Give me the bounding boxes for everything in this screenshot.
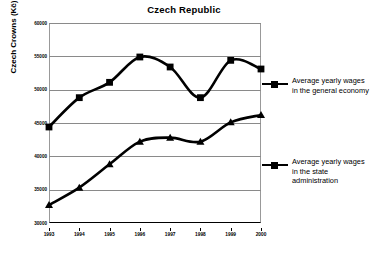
x-tick-mark: [49, 228, 50, 231]
data-point-marker: [106, 79, 113, 86]
x-tick-label: 1994: [67, 232, 91, 237]
x-axis-tick-labels: 19931994199519961997199819992000: [49, 228, 261, 238]
series-line: [49, 115, 261, 205]
data-point-marker: [197, 94, 204, 101]
data-series-layer: [49, 23, 261, 223]
x-tick-label: 1999: [219, 232, 243, 237]
data-point-marker: [46, 124, 53, 131]
y-tick-label: 60000: [34, 21, 47, 26]
y-tick-label: 45000: [34, 121, 47, 126]
x-tick-mark: [170, 228, 171, 231]
x-tick-label: 2000: [249, 232, 273, 237]
x-tick-label: 1997: [158, 232, 182, 237]
data-point-marker: [227, 57, 234, 64]
x-tick-mark: [110, 228, 111, 231]
legend-label: Average yearly wages in the state admini…: [292, 157, 370, 186]
x-tick-label: 1995: [98, 232, 122, 237]
series-line: [49, 56, 261, 127]
data-point-marker: [258, 66, 265, 73]
series-state-administration: [45, 111, 265, 208]
y-axis-tick-labels: 30000350004000045000500005500060000: [18, 23, 47, 223]
x-tick-mark: [231, 228, 232, 231]
series-general-economy: [46, 54, 265, 131]
legend-label: Average yearly wages in the general econ…: [292, 76, 370, 95]
x-tick-mark: [200, 228, 201, 231]
y-tick-label: 55000: [34, 54, 47, 59]
y-tick-label: 30000: [34, 221, 47, 226]
legend-square-line-marker-icon: [262, 80, 288, 88]
y-axis-title: Czech Crowns (Kč): [9, 0, 18, 92]
y-tick-label: 40000: [34, 154, 47, 159]
x-tick-label: 1993: [37, 232, 61, 237]
chart-title: Czech Republic: [0, 4, 368, 15]
legend-square-line-marker-icon: [262, 161, 288, 169]
data-point-marker: [136, 54, 143, 61]
x-tick-mark: [79, 228, 80, 231]
data-point-marker: [76, 94, 83, 101]
data-point-marker: [167, 64, 174, 71]
y-tick-label: 50000: [34, 87, 47, 92]
plot-area: [49, 23, 261, 223]
x-tick-label: 1996: [128, 232, 152, 237]
x-tick-label: 1998: [188, 232, 212, 237]
x-tick-mark: [261, 228, 262, 231]
x-tick-mark: [140, 228, 141, 231]
y-tick-label: 35000: [34, 187, 47, 192]
